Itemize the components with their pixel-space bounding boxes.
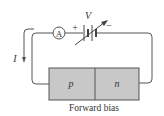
current-label: I xyxy=(12,53,17,64)
minus-sign: − xyxy=(106,20,112,31)
ammeter: A xyxy=(53,27,65,39)
n-region-label: n xyxy=(115,78,120,89)
forward-bias-circuit: A + − V I p n Forward bias xyxy=(0,0,164,116)
p-region-label: p xyxy=(68,78,74,89)
voltage-label: V xyxy=(85,10,93,21)
plus-sign: + xyxy=(72,22,78,33)
ammeter-label: A xyxy=(56,29,63,39)
pn-junction xyxy=(49,68,139,100)
diagram-caption: Forward bias xyxy=(69,103,119,113)
